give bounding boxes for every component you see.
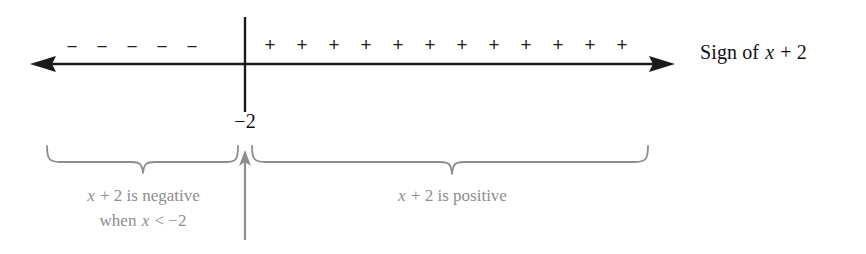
tick-value-text: −2 <box>234 110 255 132</box>
left-underbrace <box>47 146 238 173</box>
minus-sign: − <box>57 37 87 56</box>
right-caption-variable: x <box>397 186 407 205</box>
axis-label-text: Sign of <box>700 41 759 63</box>
negative-sign-row: − − − − − <box>57 37 207 56</box>
minus-sign: − <box>177 37 207 56</box>
plus-sign: + <box>446 35 478 54</box>
number-line-axis <box>30 56 675 72</box>
left-caption-text-1: + 2 is negative <box>100 186 200 205</box>
axis-label: Sign of x + 2 <box>700 41 807 64</box>
plus-sign: + <box>414 35 446 54</box>
tick-value-label: −2 <box>205 110 285 133</box>
minus-sign: − <box>87 37 117 56</box>
left-caption-variable-2: x <box>141 211 151 230</box>
axis-label-expression: + 2 <box>780 41 807 63</box>
plus-sign: + <box>286 35 318 54</box>
right-brace-caption: x + 2 is positive <box>352 183 552 208</box>
plus-sign: + <box>382 35 414 54</box>
plus-sign: + <box>318 35 350 54</box>
sign-chart-figure: − − − − − + + + + + + + + + + + + Sign o… <box>0 0 866 254</box>
left-caption-line-2: when x < −2 <box>43 208 243 233</box>
axis-label-variable: x <box>764 41 775 63</box>
minus-sign: − <box>117 37 147 56</box>
plus-sign: + <box>478 35 510 54</box>
right-underbrace <box>252 146 648 174</box>
left-caption-text-2a: when <box>100 211 137 230</box>
left-brace-caption: x + 2 is negative when x < −2 <box>43 183 243 233</box>
minus-sign: − <box>147 37 177 56</box>
plus-sign: + <box>350 35 382 54</box>
left-caption-line-1: x + 2 is negative <box>43 183 243 208</box>
plus-sign: + <box>574 35 606 54</box>
right-caption-line-1: x + 2 is positive <box>352 183 552 208</box>
plus-sign: + <box>510 35 542 54</box>
plus-sign: + <box>542 35 574 54</box>
left-caption-text-2b: < −2 <box>154 211 186 230</box>
left-caption-variable-1: x <box>86 186 96 205</box>
right-caption-text: + 2 is positive <box>411 186 507 205</box>
plus-sign: + <box>254 35 286 54</box>
positive-sign-row: + + + + + + + + + + + + <box>254 35 638 54</box>
plus-sign: + <box>606 35 638 54</box>
